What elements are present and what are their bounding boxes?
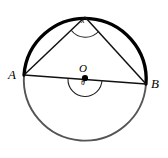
major-arc-acb (24, 18, 146, 84)
label-central-angle-theta: θ (81, 79, 85, 87)
label-center-o: O (79, 63, 87, 74)
label-point-b: B (151, 77, 159, 90)
inscribed-angle-arc-icon (71, 30, 99, 37)
circle-geometry-figure: A B O x θ (0, 0, 168, 158)
label-inscribed-angle-x: x (81, 17, 85, 25)
label-point-a: A (8, 68, 16, 81)
